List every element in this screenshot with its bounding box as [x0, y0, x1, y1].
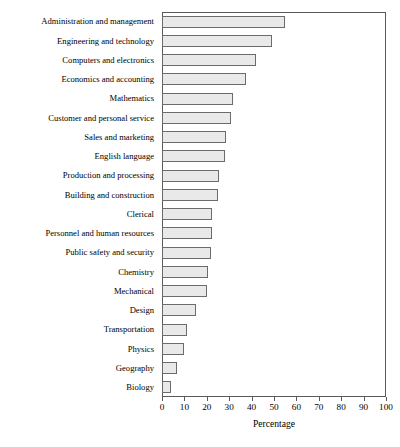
category-label: Transportation: [104, 325, 154, 334]
bar-row: [162, 31, 386, 50]
x-tick-mark: [364, 397, 365, 401]
bar: [162, 170, 219, 182]
category-label: Chemistry: [118, 268, 154, 277]
category-label-row: Mechanical: [0, 282, 158, 301]
bar: [162, 54, 256, 66]
bar-row: [162, 282, 386, 301]
x-tick-mark: [252, 397, 253, 401]
x-tick-mark: [229, 397, 230, 401]
category-label-row: Geography: [0, 359, 158, 378]
bar: [162, 16, 285, 28]
bar: [162, 93, 233, 105]
category-label: Production and processing: [63, 171, 154, 180]
bar-row: [162, 359, 386, 378]
category-label-row: Building and construction: [0, 185, 158, 204]
bar-row: [162, 243, 386, 262]
category-label: Engineering and technology: [57, 37, 154, 46]
category-label: Personnel and human resources: [45, 229, 154, 238]
bar: [162, 35, 272, 47]
bar: [162, 208, 212, 220]
category-label-row: Administration and management: [0, 12, 158, 31]
x-tick-label: 100: [379, 402, 393, 412]
x-tick-label: 80: [337, 402, 346, 412]
category-axis-labels: Administration and managementEngineering…: [0, 12, 158, 397]
bar-row: [162, 262, 386, 281]
category-label-row: Economics and accounting: [0, 70, 158, 89]
category-label: Geography: [116, 364, 154, 373]
bar: [162, 266, 208, 278]
bar: [162, 324, 187, 336]
x-tick-mark: [341, 397, 342, 401]
x-tick-label: 50: [269, 402, 278, 412]
category-label-row: Personnel and human resources: [0, 224, 158, 243]
bar-row: [162, 70, 386, 89]
category-label-row: Production and processing: [0, 166, 158, 185]
x-tick-mark: [184, 397, 185, 401]
bar-row: [162, 51, 386, 70]
category-label-row: Engineering and technology: [0, 31, 158, 50]
x-tick-mark: [319, 397, 320, 401]
category-label-row: Biology: [0, 378, 158, 397]
bar: [162, 362, 177, 374]
category-label-row: Public safety and security: [0, 243, 158, 262]
bar: [162, 131, 226, 143]
bar-row: [162, 339, 386, 358]
bar: [162, 73, 246, 85]
category-label: Public safety and security: [65, 248, 154, 257]
bar-row: [162, 205, 386, 224]
x-tick-mark: [162, 397, 163, 401]
bar-row: [162, 378, 386, 397]
bar: [162, 285, 207, 297]
category-label: Building and construction: [65, 191, 154, 200]
category-label-row: Computers and electronics: [0, 51, 158, 70]
bar: [162, 227, 212, 239]
category-label-row: English language: [0, 147, 158, 166]
bar-row: [162, 320, 386, 339]
x-axis-title: Percentage: [162, 418, 386, 429]
x-tick-label: 0: [160, 402, 165, 412]
category-label: Administration and management: [41, 17, 154, 26]
x-tick-label: 40: [247, 402, 256, 412]
category-label: Biology: [126, 383, 154, 392]
category-label: Design: [130, 306, 154, 315]
category-label: Physics: [128, 345, 154, 354]
bar-row: [162, 89, 386, 108]
category-label-row: Transportation: [0, 320, 158, 339]
category-label-row: Chemistry: [0, 262, 158, 281]
category-label: English language: [95, 152, 154, 161]
x-tick-mark: [296, 397, 297, 401]
x-tick-mark: [274, 397, 275, 401]
category-label: Clerical: [127, 210, 154, 219]
category-label: Computers and electronics: [62, 56, 154, 65]
bar-row: [162, 301, 386, 320]
bar-row: [162, 108, 386, 127]
category-label-row: Clerical: [0, 205, 158, 224]
bar-row: [162, 224, 386, 243]
x-tick-mark: [207, 397, 208, 401]
bar-row: [162, 128, 386, 147]
category-label-row: Physics: [0, 339, 158, 358]
bar: [162, 381, 171, 393]
category-label: Customer and personal service: [48, 114, 154, 123]
category-label: Mechanical: [114, 287, 154, 296]
x-tick-label: 30: [225, 402, 234, 412]
bar: [162, 247, 211, 259]
horizontal-bar-chart: Administration and managementEngineering…: [0, 0, 400, 447]
bar: [162, 189, 218, 201]
category-label: Sales and marketing: [84, 133, 154, 142]
x-tick-label: 90: [359, 402, 368, 412]
bar: [162, 150, 225, 162]
bars-container: [162, 12, 386, 397]
x-tick-label: 10: [180, 402, 189, 412]
category-label: Mathematics: [110, 94, 154, 103]
x-tick-mark: [386, 397, 387, 401]
category-label-row: Mathematics: [0, 89, 158, 108]
bar: [162, 343, 184, 355]
x-tick-label: 20: [202, 402, 211, 412]
x-tick-label: 60: [292, 402, 301, 412]
bar-row: [162, 166, 386, 185]
bar-row: [162, 185, 386, 204]
category-label-row: Customer and personal service: [0, 108, 158, 127]
bar: [162, 304, 196, 316]
x-tick-label: 70: [314, 402, 323, 412]
